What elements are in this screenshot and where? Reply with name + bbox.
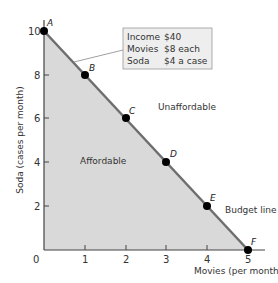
point-label-f: F [251,237,257,247]
budget-line-chart: 10 8 6 4 2 0 1 2 3 4 5 Movies (per month… [0,0,278,283]
y-tick-label: 6 [34,113,40,124]
info-income-key: Income [127,32,161,42]
y-tick-label: 10 [28,26,41,37]
x-tick-label: 1 [82,254,88,265]
info-leader-line [74,50,123,62]
point-f [244,246,252,254]
y-tick-label: 8 [34,70,40,81]
info-soda-value: $4 a case [164,56,208,66]
info-income-value: $40 [164,32,181,42]
unaffordable-label: Unaffordable [158,102,216,112]
point-b [81,71,89,79]
point-label-d: D [170,149,177,159]
x-axis-title: Movies (per month) [194,266,278,276]
budget-line-label: Budget line [225,205,277,215]
x-tick-label: 0 [33,254,39,265]
y-tick-label: 4 [34,157,40,168]
info-movies-key: Movies [127,44,159,54]
point-d [162,158,170,166]
x-tick-label: 5 [245,254,251,265]
point-a [40,27,48,35]
point-label-c: C [129,106,136,116]
point-label-b: B [89,63,95,73]
y-tick-label: 2 [34,201,40,212]
info-soda-key: Soda [127,56,149,66]
point-e [203,202,211,210]
x-tick-label: 3 [163,254,169,265]
point-label-a: A [46,18,53,28]
x-tick-label: 4 [204,254,210,265]
y-axis-title: Soda (cases per month) [15,86,25,194]
affordable-label: Affordable [80,156,127,166]
x-tick-label: 2 [123,254,129,265]
point-label-e: E [210,193,216,203]
info-movies-value: $8 each [164,44,200,54]
